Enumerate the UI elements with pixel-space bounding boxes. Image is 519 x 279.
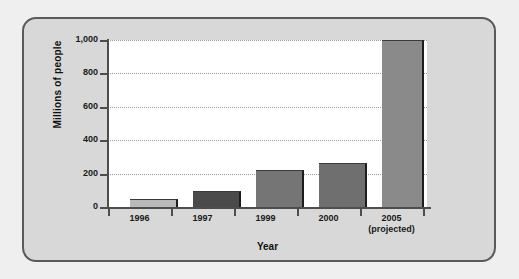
x-axis-line [100, 207, 431, 209]
gridline-400 [108, 140, 427, 141]
y-tick-200 [100, 174, 108, 176]
gridline-1000 [108, 40, 427, 41]
category-label-text: 2005 [381, 213, 401, 223]
y-tick-label-200: 200 [52, 169, 98, 178]
bar-1999 [256, 170, 304, 207]
category-label-text: 2000 [318, 213, 338, 223]
x-tick-5 [423, 209, 425, 216]
category-label-1996: 1996 [108, 213, 171, 224]
chart-panel: 1,000 800 600 400 200 0 1996 1997 1999 2… [22, 17, 496, 262]
category-label-2005: 2005 (projected) [360, 213, 423, 235]
category-label-text: 1999 [255, 213, 275, 223]
bar-1997 [193, 191, 241, 207]
y-tick-0 [100, 207, 108, 209]
category-label-2000: 2000 [297, 213, 360, 224]
gridline-600 [108, 107, 427, 108]
gridline-800 [108, 73, 427, 74]
category-sublabel-text: (projected) [360, 224, 423, 235]
bar-2000 [319, 163, 367, 207]
category-label-text: 1996 [129, 213, 149, 223]
y-tick-600 [100, 107, 108, 109]
bar-2005 [382, 40, 424, 207]
category-label-1997: 1997 [171, 213, 234, 224]
plot-area [108, 40, 427, 207]
y-tick-800 [100, 73, 108, 75]
y-axis-line [107, 39, 109, 208]
category-label-text: 1997 [192, 213, 212, 223]
y-axis-title: Millions of people [52, 30, 63, 140]
x-axis-title: Year [108, 241, 427, 252]
y-tick-1000 [100, 40, 108, 42]
y-tick-label-0: 0 [52, 202, 98, 211]
y-tick-400 [100, 140, 108, 142]
category-label-1999: 1999 [234, 213, 297, 224]
bar-1996 [130, 199, 178, 207]
